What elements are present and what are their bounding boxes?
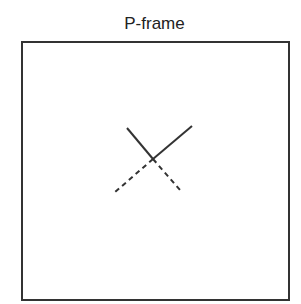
x-shape-icon bbox=[0, 0, 301, 304]
dashed-line-right bbox=[153, 159, 180, 190]
solid-line-left bbox=[127, 128, 153, 159]
dashed-line-left bbox=[114, 159, 153, 193]
solid-line-right bbox=[153, 126, 192, 159]
